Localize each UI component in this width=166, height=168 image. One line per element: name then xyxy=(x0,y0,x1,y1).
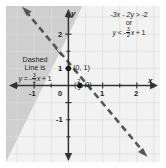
inequality2-relation: < xyxy=(118,28,122,37)
inequality2-slope-fraction: 3 2 xyxy=(126,27,130,39)
note-row-2: Line is xyxy=(6,64,64,72)
x-tick-label-0: 0 xyxy=(58,89,62,98)
note-eq-plus: + xyxy=(42,74,46,83)
inequality-annotation: -3x - 2y>-2 or y<- 3 2 x+1 xyxy=(98,11,160,39)
inequality2-plus: + xyxy=(136,28,140,37)
inequality-relation: > xyxy=(136,10,140,19)
inequality-line-2: y<- 3 2 x+1 xyxy=(98,27,160,39)
note-eq-intercept: 1 xyxy=(47,74,51,83)
y-tick-label-1: 1 xyxy=(58,64,62,73)
inequality2-lhs: y xyxy=(113,28,117,37)
note-equation: y=- 3 2 x+1 xyxy=(6,73,64,85)
note-eq-relation: = xyxy=(24,74,28,83)
note-eq-variable: x xyxy=(37,74,41,83)
point2-close: , 0) xyxy=(81,80,91,89)
x-tick-label-1: 1 xyxy=(100,89,104,98)
slope-denominator: 2 xyxy=(126,32,130,39)
y-axis-label: y xyxy=(71,9,75,18)
inequality2-variable: x xyxy=(131,28,135,37)
y-tick-label-2: 2 xyxy=(58,30,62,39)
point-label-two-thirds-0: ( 2 3 , 0) xyxy=(74,79,92,91)
dashed-line-note: Dashed Line is y=- 3 2 x+1 xyxy=(6,56,64,85)
y-tick-label--1: -1 xyxy=(56,115,63,124)
point-label-0-1: (0, 1) xyxy=(73,64,90,72)
x-tick-label-2: 2 xyxy=(134,89,138,98)
inequality-graph-figure: -3x - 2y>-2 or y<- 3 2 x+1 Dashed Line i… xyxy=(0,0,166,168)
note-slope-fraction: 3 2 xyxy=(32,73,36,85)
note-slope-denominator: 2 xyxy=(32,78,36,85)
x-tick-label--1: -1 xyxy=(29,89,36,98)
x-axis-label: x xyxy=(148,76,152,85)
inequality2-intercept: 1 xyxy=(141,28,145,37)
note-eq-lhs: y xyxy=(19,74,23,83)
inequality-rhs: -2 xyxy=(141,10,147,19)
point-0-1 xyxy=(66,66,71,71)
